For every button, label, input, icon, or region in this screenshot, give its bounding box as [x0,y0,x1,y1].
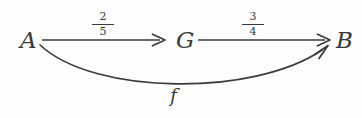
edge-label-g-to-b: 3 4 [242,11,264,38]
edge-label-a-to-g: 2 5 [92,11,114,38]
edge-label-a-to-b: f [170,86,177,105]
node-label-g: G [176,29,194,52]
edge-g-to-b [198,34,330,46]
diagram-canvas [0,0,362,118]
edge-label-g-to-b-numerator: 3 [242,11,264,23]
node-label-b: B [336,29,353,52]
edge-label-g-to-b-denominator: 4 [242,26,264,38]
node-label-a: A [20,29,37,52]
edge-a-to-b-arrowhead [316,46,329,59]
commutative-diagram: A G B 2 5 3 4 f [0,0,362,118]
edge-label-a-to-g-numerator: 2 [92,11,114,23]
edge-label-a-to-g-denominator: 5 [92,26,114,38]
